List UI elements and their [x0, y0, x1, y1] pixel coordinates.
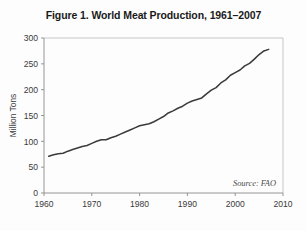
x-tick-label-1980: 1980: [130, 199, 149, 209]
figure-container: Figure 1. World Meat Production, 1961–20…: [0, 0, 307, 231]
data-series-line: [49, 49, 269, 156]
y-tick-label-100: 100: [24, 137, 39, 147]
x-tick-label-1960: 1960: [34, 199, 53, 209]
line-chart-svg: 300 250 200 150 100 50 0 1960 1970 1980 …: [0, 0, 307, 231]
x-tick-label-2010: 2010: [273, 199, 292, 209]
y-axis-tick-labels: 300 250 200 150 100 50 0: [24, 33, 39, 198]
x-tick-label-2000: 2000: [226, 199, 245, 209]
y-tick-label-200: 200: [24, 85, 39, 95]
x-tick-label-1990: 1990: [178, 199, 197, 209]
chart-plot-area: 300 250 200 150 100 50 0 1960 1970 1980 …: [0, 0, 307, 231]
y-tick-label-300: 300: [24, 33, 39, 43]
y-axis-title: Million Tons: [8, 94, 18, 138]
y-tick-label-150: 150: [24, 111, 39, 121]
x-axis-tick-labels: 1960 1970 1980 1990 2000 2010: [34, 199, 292, 209]
x-tick-label-1970: 1970: [82, 199, 101, 209]
y-tick-label-50: 50: [28, 162, 38, 172]
y-tick-label-250: 250: [24, 59, 39, 69]
source-annotation: Source: FAO: [233, 179, 276, 188]
y-tick-label-0: 0: [33, 188, 38, 198]
